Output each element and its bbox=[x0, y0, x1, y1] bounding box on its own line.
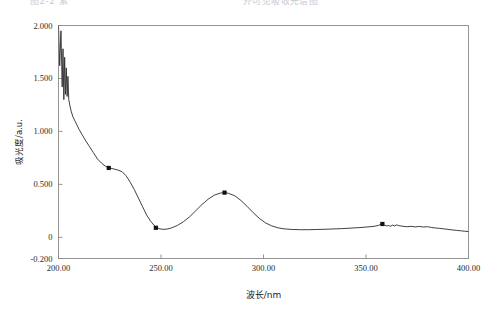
y-axis-ticks: -0.20000.5001.0001.5002.000 bbox=[31, 21, 63, 264]
uv-vis-spectrum-plot: -0.20000.5001.0001.5002.000 200.00250.00… bbox=[0, 0, 497, 319]
x-tick-label: 400.00 bbox=[457, 263, 480, 273]
data-point-marker-peak bbox=[222, 191, 226, 195]
y-tick-label: 0.500 bbox=[33, 179, 52, 189]
data-point-marker-bump bbox=[380, 222, 384, 226]
x-tick-label: 250.00 bbox=[149, 263, 172, 273]
x-axis-title: 波长/nm bbox=[246, 289, 282, 300]
x-tick-label: 200.00 bbox=[47, 263, 70, 273]
x-tick-label: 300.00 bbox=[252, 263, 275, 273]
y-tick-label: 2.000 bbox=[33, 21, 52, 31]
y-tick-label: 1.000 bbox=[33, 126, 52, 136]
y-tick-label: 1.500 bbox=[33, 73, 52, 83]
plot-border bbox=[59, 26, 469, 259]
figure-container: 图2-2 紫 外可见吸收光谱图 -0.20000.5001.0001.5002.… bbox=[0, 0, 497, 319]
x-tick-label: 350.00 bbox=[354, 263, 377, 273]
y-tick-label: 0 bbox=[48, 232, 52, 242]
plot-frame bbox=[59, 26, 469, 259]
data-point-marker-valley bbox=[154, 226, 158, 230]
data-point-marker-shoulder bbox=[107, 166, 111, 170]
y-axis-title: 吸光度/a.u. bbox=[14, 119, 24, 165]
